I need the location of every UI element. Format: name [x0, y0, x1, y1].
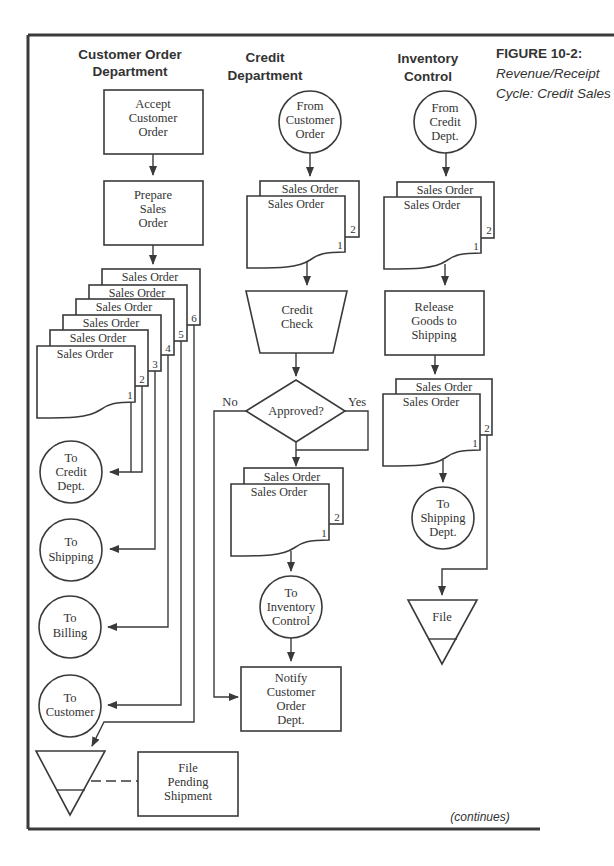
svg-text:2: 2: [486, 224, 492, 236]
svg-text:Sales Order: Sales Order: [70, 331, 126, 345]
svg-text:Sales Order: Sales Order: [403, 395, 459, 409]
svg-text:Billing: Billing: [53, 626, 88, 640]
figure-caption-line-2: Cycle: Credit Sales: [496, 86, 611, 101]
svg-text:Credit: Credit: [281, 303, 313, 317]
svg-text:Goods to: Goods to: [411, 314, 457, 328]
svg-text:Dept.: Dept.: [277, 713, 304, 727]
svg-text:2: 2: [139, 373, 145, 385]
to-shipping-connector: To Shipping: [40, 519, 102, 581]
svg-text:To: To: [64, 535, 77, 549]
svg-text:Sales Order: Sales Order: [268, 197, 324, 211]
heading-customer-order-line-1: Customer Order: [78, 47, 182, 62]
svg-text:Sales Order: Sales Order: [251, 485, 307, 499]
inventory-column: From Credit Dept. Sales Order 2 Sales Or…: [383, 91, 494, 664]
svg-text:Pending: Pending: [168, 775, 210, 789]
svg-text:6: 6: [191, 312, 197, 324]
accept-customer-order-process: Accept Customer Order: [104, 90, 203, 154]
svg-text:Shipping: Shipping: [48, 550, 94, 564]
svg-text:Customer: Customer: [46, 705, 95, 719]
notify-customer-order-dept-process: Notify Customer Order Dept.: [241, 667, 341, 731]
svg-text:1: 1: [473, 240, 479, 252]
svg-text:Approved?: Approved?: [268, 404, 324, 418]
sales-order-2-copies-approved: Sales Order 2 Sales Order 1: [231, 468, 343, 556]
svg-text:1: 1: [472, 437, 478, 449]
svg-text:Credit: Credit: [55, 465, 87, 479]
svg-text:Sales Order: Sales Order: [404, 198, 460, 212]
svg-text:Dept.: Dept.: [431, 129, 458, 143]
figure-caption-line-1: Revenue/Receipt: [496, 66, 601, 81]
to-billing-connector: To Billing: [39, 596, 101, 658]
svg-text:Inventory: Inventory: [267, 600, 316, 614]
svg-text:Shipment: Shipment: [164, 789, 212, 803]
to-shipping-dept-connector: To Shipping Dept.: [412, 487, 474, 549]
svg-text:To: To: [64, 451, 77, 465]
svg-text:File: File: [178, 761, 198, 775]
svg-text:Sales Order: Sales Order: [416, 380, 472, 394]
svg-text:From: From: [296, 99, 323, 113]
svg-text:Release: Release: [415, 300, 454, 314]
heading-credit-line-1: Credit: [245, 50, 285, 65]
svg-text:Customer: Customer: [267, 685, 316, 699]
prepare-sales-order-process: Prepare Sales Order: [104, 181, 203, 245]
svg-text:Accept: Accept: [135, 97, 171, 111]
svg-text:Shipping: Shipping: [420, 511, 466, 525]
svg-text:Sales Order: Sales Order: [122, 270, 178, 284]
heading-inventory-line-1: Inventory: [398, 51, 459, 66]
from-customer-order-connector: From Customer Order: [279, 91, 341, 153]
svg-text:1: 1: [127, 389, 133, 401]
svg-text:2: 2: [484, 422, 490, 434]
file-storage: File: [408, 600, 477, 664]
to-customer-connector: To Customer: [39, 675, 101, 737]
svg-text:Order: Order: [138, 216, 168, 230]
yes-branch-label: Yes: [348, 395, 366, 409]
svg-text:5: 5: [178, 328, 184, 340]
svg-text:Shipping: Shipping: [411, 328, 457, 342]
figure-number: FIGURE 10-2:: [496, 46, 582, 61]
svg-text:3: 3: [152, 358, 158, 370]
credit-column: From Customer Order Sales Order 2 Sales …: [214, 91, 368, 731]
flowchart-canvas: FIGURE 10-2: Revenue/Receipt Cycle: Cred…: [0, 0, 614, 866]
svg-text:Sales Order: Sales Order: [417, 183, 473, 197]
svg-text:Sales Order: Sales Order: [282, 182, 338, 196]
heading-credit-line-2: Department: [227, 68, 303, 83]
svg-text:To: To: [63, 691, 76, 705]
svg-text:Sales Order: Sales Order: [109, 286, 165, 300]
heading-customer-order-line-2: Department: [92, 64, 168, 79]
sales-order-2-copies-shipping: Sales Order 2 Sales Order 1: [383, 379, 492, 466]
to-credit-dept-connector: To Credit Dept.: [40, 441, 102, 503]
svg-text:Dept.: Dept.: [57, 479, 84, 493]
sales-order-2-copies-credit: Sales Order 2 Sales Order 1: [247, 181, 359, 268]
svg-text:1: 1: [321, 527, 327, 539]
svg-text:From: From: [431, 101, 458, 115]
credit-check-manual-operation: Credit Check: [246, 291, 347, 353]
continues-label: (continues): [450, 810, 509, 824]
file-pending-shipment-storage: File Pending Shipment: [36, 751, 238, 816]
svg-text:Order: Order: [276, 699, 306, 713]
svg-text:4: 4: [165, 342, 171, 354]
sales-order-6-copies: Sales Order 6 Sales Order 5 Sales Order …: [37, 269, 200, 418]
svg-text:Sales Order: Sales Order: [57, 347, 113, 361]
figure-caption: FIGURE 10-2: Revenue/Receipt Cycle: Cred…: [496, 46, 611, 101]
from-credit-dept-connector: From Credit Dept.: [414, 91, 476, 153]
svg-text:Order: Order: [295, 127, 325, 141]
svg-text:Credit: Credit: [429, 115, 461, 129]
svg-text:Customer: Customer: [129, 111, 178, 125]
svg-text:Sales: Sales: [140, 202, 167, 216]
sales-order-2-copies-inventory: Sales Order 2 Sales Order 1: [384, 182, 494, 269]
svg-text:Dept.: Dept.: [429, 525, 456, 539]
svg-text:1: 1: [337, 239, 343, 251]
svg-text:File: File: [432, 610, 452, 624]
svg-text:Control: Control: [272, 614, 311, 628]
svg-text:Sales Order: Sales Order: [96, 300, 152, 314]
svg-text:Order: Order: [138, 125, 168, 139]
svg-text:Customer: Customer: [286, 113, 335, 127]
svg-text:To: To: [436, 497, 449, 511]
to-inventory-control-connector: To Inventory Control: [260, 576, 322, 638]
release-goods-to-shipping-process: Release Goods to Shipping: [385, 291, 484, 355]
svg-text:Notify: Notify: [275, 671, 308, 685]
column-headings: Customer Order Department Credit Departm…: [78, 47, 459, 84]
svg-text:Sales Order: Sales Order: [83, 316, 139, 330]
heading-inventory-line-2: Control: [404, 69, 452, 84]
customer-order-column: Accept Customer Order Prepare Sales Orde…: [36, 90, 238, 816]
no-branch-label: No: [222, 395, 237, 409]
